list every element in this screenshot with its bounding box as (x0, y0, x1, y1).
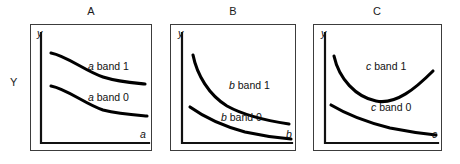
panel-b: y b b band 1 b band 0 (170, 24, 296, 151)
panel-title-a: A (71, 5, 111, 17)
panel-b-x-axis-tag: b (286, 128, 292, 140)
panel-title-b: B (213, 5, 253, 17)
panel-b-y-axis-tag: y (178, 27, 183, 39)
panel-c-y-axis-tag: y (321, 27, 326, 39)
panel-c: y c c band 1 c band 0 (313, 24, 442, 151)
panel-c-x-axis-tag: c (432, 128, 437, 140)
panel-a-x-axis-tag: a (140, 128, 146, 140)
figure-canvas: Y A y a a band 1 a band 0 B y b b band 1 (0, 0, 460, 164)
panel-a-label-band-0: a band 0 (88, 91, 129, 103)
panel-a-label-band-1-text: band 1 (94, 60, 129, 72)
panel-c-label-band-0: c band 0 (371, 101, 411, 113)
panel-title-c: C (357, 5, 397, 17)
panel-a-label-band-0-text: band 0 (94, 91, 129, 103)
panel-a-label-band-1: a band 1 (88, 60, 129, 72)
panel-a-y-axis-tag: y (37, 27, 42, 39)
panel-b-label-band-0-text: band 0 (227, 111, 262, 123)
figure-y-axis-label: Y (10, 76, 17, 88)
panel-b-label-band-1-text: band 1 (235, 79, 270, 91)
panel-a-plot (31, 25, 153, 152)
panel-c-plot (314, 25, 443, 152)
panel-c-label-band-1-text: band 1 (371, 60, 406, 72)
panel-a: y a a band 1 a band 0 (30, 24, 152, 151)
panel-b-label-band-0: b band 0 (221, 111, 262, 123)
panel-c-label-band-0-text: band 0 (376, 101, 411, 113)
panel-c-label-band-1: c band 1 (366, 60, 406, 72)
panel-b-label-band-1: b band 1 (229, 79, 270, 91)
